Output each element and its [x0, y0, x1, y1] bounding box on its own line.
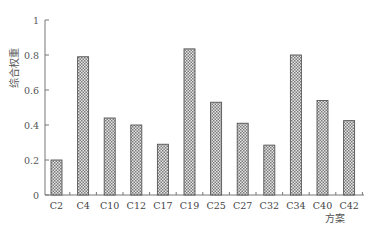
x-tick-label: C34 — [286, 200, 305, 211]
y-tick-label: 0.4 — [24, 120, 39, 131]
x-tick-label: C42 — [339, 200, 358, 211]
y-axis: 00.20.40.60.81 — [24, 15, 49, 201]
bar-c4 — [78, 57, 89, 195]
x-tick-label: C32 — [260, 200, 279, 211]
bar-c10 — [104, 118, 115, 195]
x-tick-label: C10 — [100, 200, 119, 211]
bar-c34 — [290, 55, 301, 195]
x-tick-label: C2 — [50, 200, 63, 211]
bars — [51, 49, 355, 195]
bar-c17 — [157, 144, 168, 195]
x-tick-label: C25 — [206, 200, 225, 211]
x-tick-label: C12 — [127, 200, 146, 211]
y-tick-label: 0 — [33, 190, 39, 201]
y-tick-label: 0.2 — [24, 155, 39, 166]
bar-c32 — [264, 145, 275, 195]
x-tick-label: C27 — [233, 200, 252, 211]
bar-c40 — [317, 101, 328, 196]
bar-c27 — [237, 123, 248, 195]
bar-c42 — [344, 121, 355, 195]
x-tick-label: C40 — [313, 200, 332, 211]
bar-chart: 00.20.40.60.81 C2C4C10C12C17C19C25C27C32… — [0, 0, 379, 238]
x-axis: C2C4C10C12C17C19C25C27C32C34C40C42 — [45, 192, 364, 211]
y-tick-label: 0.6 — [24, 85, 39, 96]
bar-c25 — [211, 102, 222, 195]
x-tick-label: C17 — [153, 200, 172, 211]
y-tick-label: 0.8 — [24, 50, 39, 61]
x-axis-title: 方案 — [325, 212, 345, 224]
x-tick-label: C4 — [76, 200, 89, 211]
bar-c2 — [51, 160, 62, 195]
y-axis-title: 综合权重 — [8, 48, 20, 88]
y-tick-label: 1 — [33, 15, 39, 26]
bar-c12 — [131, 125, 142, 195]
bar-c19 — [184, 49, 195, 195]
x-tick-label: C19 — [180, 200, 199, 211]
